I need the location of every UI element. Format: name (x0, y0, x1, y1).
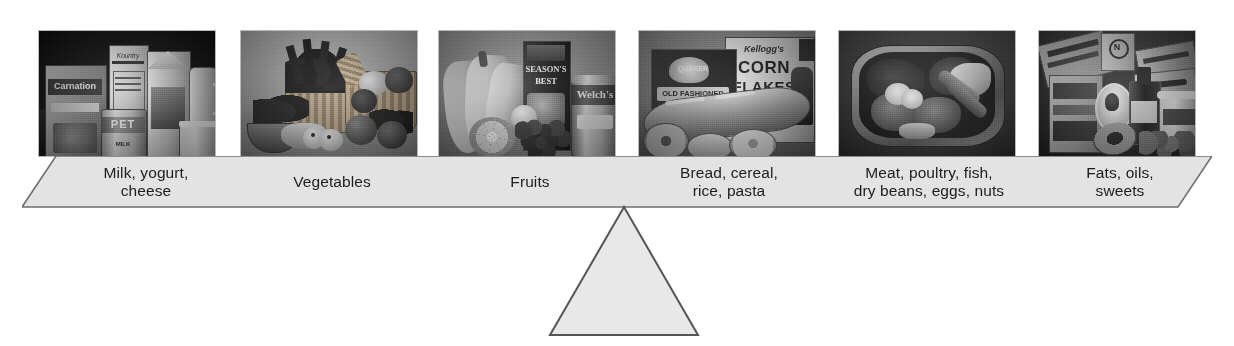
balance-beam-diagram: Carnation Kountry PET MILK (0, 0, 1234, 346)
label-line-2: rice, pasta (693, 182, 766, 199)
food-group-photo-grains: Kellogg's CORN FLAKES QUAKER OLD FASHION… (638, 30, 816, 157)
beam-label-vegetables: Vegetables (244, 156, 420, 208)
label-line-1: Fruits (510, 173, 549, 190)
photo-text-seasons-best: SEASON'S (523, 65, 569, 74)
photo-text-milk: MILK (101, 141, 145, 147)
label-line-2: sweets (1096, 182, 1145, 199)
label-line-1: Vegetables (293, 173, 371, 190)
beam-label-fats: Fats, oils, sweets (1040, 156, 1200, 208)
photo-text-welchs: Welch's (571, 89, 615, 100)
photo-text-best: BEST (523, 77, 569, 86)
food-group-photo-protein (838, 30, 1016, 157)
label-line-2: cheese (121, 182, 172, 199)
photo-text-pet: PET (101, 119, 145, 130)
food-group-photo-fruits: SEASON'S BEST Welch's (438, 30, 616, 157)
food-group-photo-dairy: Carnation Kountry PET MILK (38, 30, 216, 157)
beam-label-fruits: Fruits (442, 156, 618, 208)
food-group-photo-fats: N (1038, 30, 1196, 157)
beam-label-protein: Meat, poultry, fish, dry beans, eggs, nu… (822, 156, 1036, 208)
label-line-1: Fats, oils, (1086, 164, 1153, 181)
fulcrum-polygon (550, 207, 698, 335)
beam-label-grains: Bread, cereal, rice, pasta (640, 156, 818, 208)
label-line-1: Milk, yogurt, (104, 164, 189, 181)
photo-text-kountry: Kountry (109, 53, 147, 60)
label-line-1: Bread, cereal, (680, 164, 778, 181)
food-group-photo-vegetables (240, 30, 418, 157)
balance-beam: Milk, yogurt, cheese Vegetables Fruits B… (22, 156, 1212, 208)
label-line-1: Meat, poultry, fish, (865, 164, 992, 181)
photo-text-carnation: Carnation (48, 82, 102, 91)
photo-text-logo-n: N (1109, 43, 1125, 52)
fulcrum-triangle (548, 205, 700, 337)
label-line-2: dry beans, eggs, nuts (854, 182, 1004, 199)
photo-text-quaker: QUAKER (651, 65, 735, 72)
beam-label-dairy: Milk, yogurt, cheese (58, 156, 234, 208)
